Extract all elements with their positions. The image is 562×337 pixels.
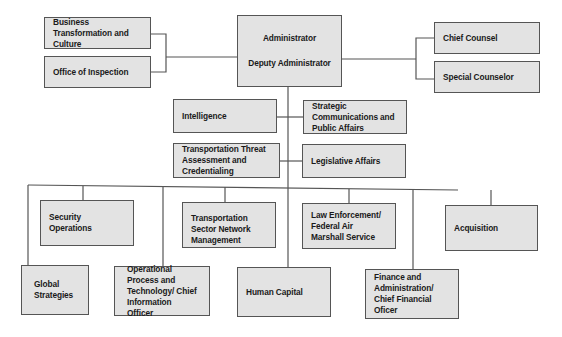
box-strategic-communications[interactable]: Strategic Communications and Public Affa… xyxy=(303,100,407,134)
label-law-enforcement: Law Enforcement/ Federal Air Marshall Se… xyxy=(311,210,387,243)
label-business-transformation: Business Transformation and Culture xyxy=(53,17,142,50)
label-administrator: Administrator xyxy=(263,33,316,44)
box-law-enforcement[interactable]: Law Enforcement/ Federal Air Marshall Se… xyxy=(302,203,396,249)
box-human-capital[interactable]: Human Capital xyxy=(237,267,331,317)
label-security-operations: Security Operations xyxy=(49,212,125,234)
label-transportation-threat: Transportation Threat Assessment and Cre… xyxy=(182,144,271,177)
label-operational-process: Operational Process and Technology/ Chie… xyxy=(127,264,197,319)
label-acquisition: Acquisition xyxy=(454,223,498,234)
label-legislative-affairs: Legislative Affairs xyxy=(311,156,380,167)
box-legislative-affairs[interactable]: Legislative Affairs xyxy=(302,144,406,178)
box-administrator[interactable]: Administrator Deputy Administrator xyxy=(237,15,342,87)
box-special-counselor[interactable]: Special Counselor xyxy=(434,61,540,93)
box-acquisition[interactable]: Acquisition xyxy=(445,205,538,251)
box-transportation-threat[interactable]: Transportation Threat Assessment and Cre… xyxy=(173,143,280,178)
box-global-strategies[interactable]: Global Strategies xyxy=(21,265,89,315)
label-special-counselor: Special Counselor xyxy=(443,72,514,83)
label-transportation-sector: Transportation Sector Network Management xyxy=(191,213,267,246)
label-chief-counsel: Chief Counsel xyxy=(443,33,497,44)
box-transportation-sector[interactable]: Transportation Sector Network Management xyxy=(182,202,276,248)
label-human-capital: Human Capital xyxy=(246,287,303,298)
box-business-transformation[interactable]: Business Transformation and Culture xyxy=(44,17,151,49)
label-global-strategies: Global Strategies xyxy=(34,279,76,301)
box-operational-process[interactable]: Operational Process and Technology/ Chie… xyxy=(114,266,210,316)
label-deputy-administrator: Deputy Administrator xyxy=(248,58,331,69)
box-security-operations[interactable]: Security Operations xyxy=(40,200,134,246)
label-intelligence: Intelligence xyxy=(182,111,226,122)
box-finance-administration[interactable]: Finance and Administration/ Chief Financ… xyxy=(365,269,459,319)
box-intelligence[interactable]: Intelligence xyxy=(173,99,277,133)
box-chief-counsel[interactable]: Chief Counsel xyxy=(434,22,540,54)
label-finance-administration: Finance and Administration/ Chief Financ… xyxy=(374,272,450,316)
label-office-of-inspection: Office of Inspection xyxy=(53,67,128,78)
box-office-of-inspection[interactable]: Office of Inspection xyxy=(44,56,151,88)
label-strategic-communications: Strategic Communications and Public Affa… xyxy=(312,101,398,134)
